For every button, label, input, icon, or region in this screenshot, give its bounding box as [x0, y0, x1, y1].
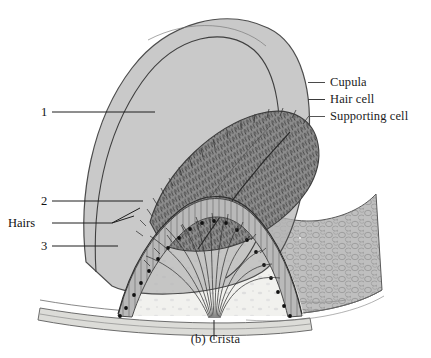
- legend-dash-icon: [308, 116, 325, 117]
- legend-label-cupula: Cupula: [330, 74, 367, 91]
- callout-label-2: 2: [41, 195, 47, 208]
- figure-caption: (b) Crista: [0, 332, 431, 347]
- legend: Cupula Hair cell Supporting cell: [308, 74, 428, 125]
- legend-item-cupula: Cupula: [308, 74, 428, 91]
- callout-label-hairs: Hairs: [8, 217, 35, 230]
- crista-illustration: [0, 0, 431, 358]
- legend-label-hair-cell: Hair cell: [330, 91, 374, 108]
- callout-label-3: 3: [41, 240, 47, 253]
- callout-label-1: 1: [41, 106, 47, 119]
- legend-item-hair-cell: Hair cell: [308, 91, 428, 108]
- legend-item-supporting-cell: Supporting cell: [308, 108, 428, 125]
- figure-root: 1 2 Hairs 3 Cupula Hair cell Supporting …: [0, 0, 431, 358]
- legend-label-supporting-cell: Supporting cell: [330, 108, 408, 125]
- legend-dash-icon: [308, 99, 325, 100]
- legend-dash-icon: [308, 82, 325, 83]
